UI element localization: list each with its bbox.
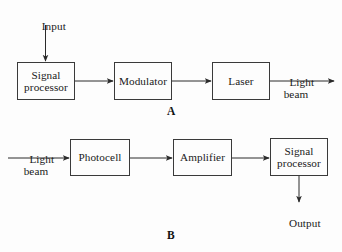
signal-processor-box-a-label: Signalprocessor <box>18 69 74 93</box>
signal-processor-box-b-label: Signalprocessor <box>271 145 327 169</box>
laser-box[interactable]: Laser <box>212 62 270 100</box>
input-label: Input <box>28 8 68 44</box>
photocell-box[interactable]: Photocell <box>70 139 130 176</box>
amplifier-box-label: Amplifier <box>174 151 231 163</box>
amplifier-box[interactable]: Amplifier <box>173 139 232 176</box>
photocell-box-label: Photocell <box>71 151 129 163</box>
block-diagram-figure: Input Signalprocessor Modulator Laser Li… <box>0 0 342 252</box>
light-beam-output-label: Lightbeam <box>275 64 317 112</box>
modulator-box-label: Modulator <box>115 75 171 87</box>
laser-box-label: Laser <box>213 75 269 87</box>
light-beam-input-label: Lightbeam <box>14 141 58 189</box>
section-letter-a: A <box>167 105 176 117</box>
signal-processor-box-a[interactable]: Signalprocessor <box>17 62 75 100</box>
section-letter-b: B <box>167 229 175 241</box>
modulator-box[interactable]: Modulator <box>114 62 172 100</box>
signal-processor-box-b[interactable]: Signalprocessor <box>270 138 328 176</box>
output-label: Output <box>277 205 321 241</box>
